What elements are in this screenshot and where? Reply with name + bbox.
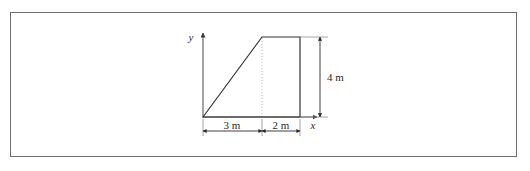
y-axis-label: y — [188, 31, 194, 43]
base-flat-dimension-label: 2 m — [273, 119, 290, 131]
trapezoid-outline — [203, 37, 300, 117]
screenshot-canvas: y x 3 m 2 m 4 m — [0, 0, 530, 171]
x-axis-label: x — [310, 119, 316, 131]
base-run-dimension-label: 3 m — [224, 119, 241, 131]
height-dimension-label: 4 m — [327, 71, 344, 83]
trapezoid-diagram: y x 3 m 2 m 4 m — [0, 0, 530, 171]
